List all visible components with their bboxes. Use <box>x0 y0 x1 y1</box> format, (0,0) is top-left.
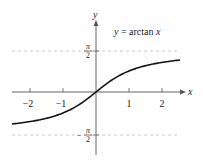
y-tick-label-pi-over-2: π 2 <box>84 42 92 60</box>
equation-label: y = arctan x <box>113 26 161 37</box>
x-tick-label: −2 <box>23 98 34 109</box>
x-tick-label: 1 <box>127 98 132 109</box>
svg-text:2: 2 <box>86 51 90 60</box>
x-axis-label: x <box>187 86 193 97</box>
x-tick-label: −1 <box>56 98 67 109</box>
svg-text:π: π <box>86 42 91 51</box>
x-axis-arrow-icon <box>180 90 186 95</box>
svg-text:2: 2 <box>86 135 90 144</box>
arctan-chart: −2 −1 1 2 x y π 2 − π 2 y = arctan x <box>0 0 203 161</box>
svg-text:π: π <box>86 126 91 135</box>
y-axis-arrow-icon <box>94 20 99 26</box>
svg-text:−: − <box>77 131 82 140</box>
x-tick-label: 2 <box>160 98 165 109</box>
y-axis-label: y <box>92 9 98 20</box>
y-tick-label-neg-pi-over-2: − π 2 <box>77 126 92 144</box>
